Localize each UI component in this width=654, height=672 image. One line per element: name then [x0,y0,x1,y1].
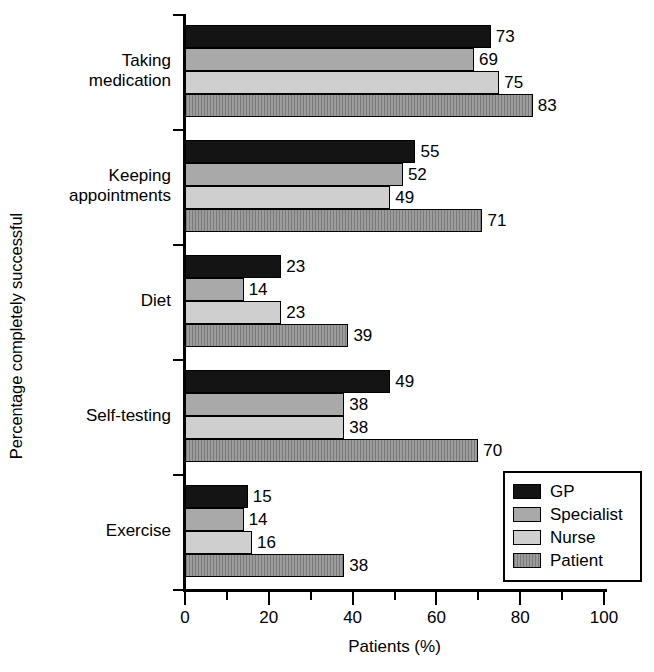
bar-row: 73 [185,25,604,48]
category-label-line: Self-testing [0,406,171,426]
bar-value-label: 73 [496,26,515,47]
bar-value-label: 14 [249,509,268,530]
bar-row: 38 [185,393,604,416]
x-axis-minor-tick [561,592,563,600]
bar-row: 38 [185,416,604,439]
bar [185,94,533,117]
bar-group: Diet23142339 [185,255,604,347]
bar-row: 23 [185,301,604,324]
bar-row: 52 [185,163,604,186]
bar [185,531,252,554]
bar-row: 69 [185,48,604,71]
legend-label: Patient [550,551,603,570]
x-axis-minor-tick [477,592,479,600]
y-axis-tick [173,359,185,361]
bar [185,186,390,209]
y-axis-tick [173,244,185,246]
category-label-line: Keeping [0,166,171,186]
bar-value-label: 23 [286,302,305,323]
legend-item: Specialist [513,503,633,526]
bar-value-label: 14 [249,279,268,300]
category-label-line: appointments [0,186,171,206]
bar-value-label: 71 [487,210,506,231]
category-label: Diet [0,291,171,311]
bar-value-label: 83 [538,95,557,116]
x-axis-tick-label: 20 [259,608,278,628]
x-axis-minor-tick [394,592,396,600]
bar-chart: Percentage completely successful Takingm… [0,0,654,672]
bar-value-label: 39 [353,325,372,346]
bar-value-label: 55 [420,141,439,162]
category-label: Keepingappointments [0,166,171,206]
bar-row: 70 [185,439,604,462]
bar-value-label: 38 [349,555,368,576]
bar-group: Self-testing49383870 [185,370,604,462]
bar-row: 39 [185,324,604,347]
bar [185,301,281,324]
y-axis-tick [173,14,185,16]
x-axis-tick-label: 80 [511,608,530,628]
bar-value-label: 69 [479,49,498,70]
bar [185,25,491,48]
legend: GPSpecialistNursePatient [503,471,642,582]
bar-group: Takingmedication73697583 [185,25,604,117]
x-axis-major-tick [519,592,521,605]
y-axis-title: Percentage completely successful [0,0,32,672]
bar-value-label: 49 [395,371,414,392]
x-axis-major-tick [352,592,354,605]
bar [185,485,248,508]
legend-label: Specialist [550,505,623,524]
y-axis-tick [173,129,185,131]
category-label-line: medication [0,71,171,91]
legend-item: GP [513,480,633,503]
x-axis-tick-label: 100 [590,608,618,628]
bar-value-label: 15 [253,486,272,507]
x-axis-major-tick [603,592,605,605]
bar [185,416,344,439]
legend-swatch [513,553,541,568]
legend-swatch [513,507,541,522]
x-axis-tick-label: 0 [180,608,189,628]
legend-swatch [513,530,541,545]
bar [185,163,403,186]
bar [185,255,281,278]
bar-row: 49 [185,186,604,209]
x-axis-major-tick [435,592,437,605]
x-axis-major-tick [268,592,270,605]
bar [185,439,478,462]
legend-label: Nurse [550,528,595,547]
bar-row: 55 [185,140,604,163]
x-axis-title: Patients (%) [185,637,604,657]
x-axis-tick-label: 40 [343,608,362,628]
bar-group: Keepingappointments55524971 [185,140,604,232]
x-axis-minor-tick [226,592,228,600]
bar-value-label: 52 [408,164,427,185]
bar-value-label: 23 [286,256,305,277]
bar [185,48,474,71]
legend-label: GP [550,482,575,501]
bar-value-label: 75 [504,72,523,93]
bar [185,324,348,347]
category-label: Exercise [0,521,171,541]
bar-value-label: 70 [483,440,502,461]
category-label: Self-testing [0,406,171,426]
bar-row: 71 [185,209,604,232]
x-axis-tick-label: 60 [427,608,446,628]
legend-item: Nurse [513,526,633,549]
bar-row: 83 [185,94,604,117]
x-axis-major-tick [184,592,186,605]
bar [185,370,390,393]
bar-value-label: 49 [395,187,414,208]
x-axis-minor-tick [310,592,312,600]
category-label-line: Exercise [0,521,171,541]
y-axis-tick [173,474,185,476]
bar [185,209,482,232]
bar [185,278,244,301]
legend-swatch [513,484,541,499]
category-label: Takingmedication [0,51,171,91]
category-label-line: Taking [0,51,171,71]
y-axis-tick [173,589,185,591]
legend-item: Patient [513,549,633,572]
category-label-line: Diet [0,291,171,311]
bar [185,393,344,416]
